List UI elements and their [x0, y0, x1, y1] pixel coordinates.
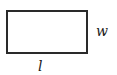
rectangle-shape — [6, 10, 88, 54]
length-label: l — [38, 59, 42, 73]
width-label: w — [96, 24, 108, 38]
